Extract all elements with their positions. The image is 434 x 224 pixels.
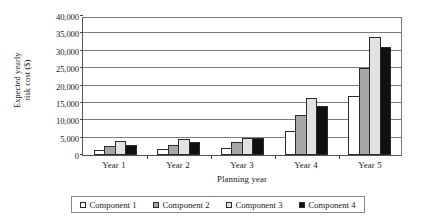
bar-group [337, 18, 401, 155]
y-tick-label: 40,000 [56, 12, 79, 22]
x-tick-mark [339, 155, 340, 159]
legend-item[interactable]: Component 4 [299, 200, 355, 210]
legend-label: Component 4 [308, 200, 355, 210]
x-tick-mark [275, 155, 276, 159]
y-tick-label: 20,000 [56, 82, 79, 92]
bar [189, 142, 201, 155]
y-tick-mark [80, 15, 83, 16]
bar [316, 106, 328, 155]
y-axis-title-line-1: Expected yearly [13, 52, 23, 108]
x-axis-title: Planning year [82, 174, 402, 184]
x-tick-mark [147, 155, 148, 159]
y-axis-tick-labels: 05,00010,00015,00020,00025,00030,00035,0… [34, 0, 82, 170]
bar [252, 138, 264, 155]
legend-item[interactable]: Component 3 [226, 200, 282, 210]
bar [380, 47, 392, 155]
x-tick-mark [211, 155, 212, 159]
chart-legend: Component 1Component 2Component 3Compone… [71, 196, 365, 213]
x-tick-label: Year 5 [338, 160, 402, 170]
bar-groups [83, 18, 401, 155]
y-tick-label: 15,000 [56, 99, 79, 109]
bar-group [83, 18, 147, 155]
legend-swatch-icon [226, 202, 232, 208]
legend-label: Component 2 [162, 200, 209, 210]
y-tick-label: 35,000 [56, 29, 79, 39]
legend-swatch-icon [80, 202, 86, 208]
bar-group [147, 18, 211, 155]
bar-chart-figure: Expected yearly risk cost ($) 05,00010,0… [0, 0, 434, 224]
plot-area [82, 17, 402, 156]
legend-item[interactable]: Component 1 [80, 200, 136, 210]
y-tick-label: 5,000 [60, 134, 79, 144]
bar-group [274, 18, 338, 155]
y-axis-title-line-2: risk cost ($) [23, 52, 33, 108]
legend-label: Component 1 [89, 200, 136, 210]
y-tick-label: 25,000 [56, 64, 79, 74]
bar-group [210, 18, 274, 155]
bar [125, 145, 137, 155]
legend-swatch-icon [153, 202, 159, 208]
x-tick-label: Year 1 [82, 160, 146, 170]
x-tick-label: Year 4 [274, 160, 338, 170]
y-tick-label: 10,000 [56, 116, 79, 126]
x-tick-label: Year 3 [210, 160, 274, 170]
y-tick-label: 0 [75, 151, 79, 161]
y-tick-label: 30,000 [56, 47, 79, 57]
x-axis-tick-labels: Year 1Year 2Year 3Year 4Year 5 [82, 160, 402, 170]
legend-swatch-icon [299, 202, 305, 208]
legend-item[interactable]: Component 2 [153, 200, 209, 210]
x-tick-label: Year 2 [146, 160, 210, 170]
legend-label: Component 3 [235, 200, 282, 210]
